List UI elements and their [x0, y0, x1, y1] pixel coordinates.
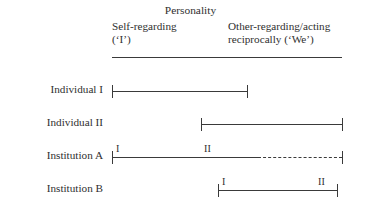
range-bar-end-cap — [342, 151, 343, 164]
range-bar-start-cap — [218, 184, 219, 197]
range-bar-annotation: I — [116, 144, 119, 154]
range-bar — [201, 124, 342, 125]
header-divider-rule — [112, 57, 342, 58]
column-header-self-regarding: Self-regarding (‘I’) — [112, 20, 222, 46]
range-bar-annotation: I — [222, 177, 225, 187]
range-bar-solid-segment — [112, 157, 258, 158]
range-bar-solid-segment — [201, 124, 342, 125]
personality-range-figure: Personality Self-regarding (‘I’) Other-r… — [0, 0, 381, 208]
range-bar-solid-segment — [218, 190, 337, 191]
range-bar-annotation: II — [318, 177, 325, 187]
range-bar-solid-segment — [112, 91, 247, 92]
range-bar-start-cap — [112, 85, 113, 98]
range-bar — [112, 91, 247, 92]
row-label: Individual I — [0, 83, 103, 95]
range-bar — [112, 157, 342, 158]
row-label: Individual II — [0, 116, 103, 128]
column-header-other-regarding: Other-regarding/acting reciprocally (‘We… — [228, 20, 354, 46]
range-bar-dashed-segment — [258, 157, 342, 158]
row-label: Institution A — [0, 149, 103, 161]
range-bar-annotation: II — [204, 144, 211, 154]
range-bar-end-cap — [342, 118, 343, 131]
figure-title: Personality — [0, 4, 381, 17]
range-bar-end-cap — [337, 184, 338, 197]
row-label: Institution B — [0, 182, 103, 194]
range-bar-start-cap — [201, 118, 202, 131]
range-bar-end-cap — [247, 85, 248, 98]
range-bar-start-cap — [112, 151, 113, 164]
range-bar — [218, 190, 337, 191]
